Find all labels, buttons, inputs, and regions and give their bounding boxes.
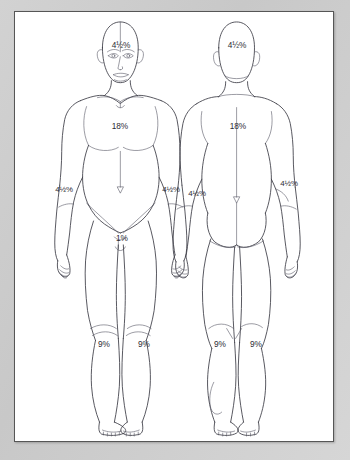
label-back-arm-left: 4½% [280, 180, 298, 188]
body-outline-illustration [15, 12, 333, 441]
label-front-trunk: 18% [112, 122, 128, 130]
label-back-leg-left: 9% [250, 340, 262, 348]
label-front-groin: 1% [116, 234, 128, 242]
label-front-leg-left: 9% [138, 340, 150, 348]
label-back-head: 4½% [228, 41, 247, 49]
label-front-arm-left: 4½% [162, 186, 180, 194]
chart-paper-frame: 4½% 18% 4½% 4½% 1% 9% 9% 4½% 18% 4½% 4½%… [14, 11, 334, 442]
anterior-figure-group [55, 22, 187, 436]
label-back-leg-right: 9% [214, 340, 226, 348]
label-back-trunk: 18% [230, 122, 246, 130]
label-front-leg-right: 9% [98, 340, 110, 348]
page-canvas: 4½% 18% 4½% 4½% 1% 9% 9% 4½% 18% 4½% 4½%… [0, 0, 350, 460]
label-front-arm-right: 4½% [55, 186, 73, 194]
body-diagram-area: 4½% 18% 4½% 4½% 1% 9% 9% 4½% 18% 4½% 4½%… [15, 12, 333, 441]
posterior-figure-group [173, 22, 300, 436]
label-back-arm-right: 4½% [188, 190, 206, 198]
label-front-head: 4½% [112, 41, 131, 49]
